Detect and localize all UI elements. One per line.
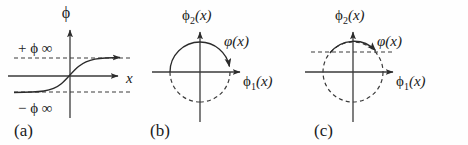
panel-c-phi2-base: ϕ: [335, 7, 343, 23]
panel-c-phi2-arg: (x): [348, 7, 365, 24]
panel-label-a: (a): [14, 121, 33, 140]
panel-b-phi1-axis-label: ϕ1(x): [243, 73, 273, 92]
panel-a-lower-asymptote-label: − ϕ ∞: [18, 100, 53, 116]
panel-c-phi1-axis-label: ϕ1(x): [396, 73, 426, 92]
panel-a-upper-asymptote-label: + ϕ ∞: [18, 40, 53, 56]
panel-b-phi1-arg: (x): [256, 73, 273, 90]
panel-label-c: (c): [314, 121, 333, 140]
panel-b-phi2-label-text: ϕ2(x): [182, 7, 212, 26]
panel-c-field-vector-label: φ(x): [377, 33, 402, 50]
panel-a-kink-curve: [14, 58, 120, 93]
panel-a: ϕ x + ϕ ∞ − ϕ ∞ (a): [8, 4, 133, 140]
panel-c-phi1-arg: (x): [409, 73, 426, 90]
panel-a-x-axis-label: x: [125, 70, 133, 86]
panel-b-phi2-arg: (x): [195, 7, 212, 24]
panel-c-phi1-base: ϕ: [396, 73, 404, 89]
panel-b-phi2-base: ϕ: [182, 7, 190, 23]
panel-c: ϕ2(x) ϕ1(x) φ(x) (c): [305, 7, 426, 140]
panel-b-phi1-base: ϕ: [243, 73, 251, 89]
panel-c-phi1-label-text: ϕ1(x): [396, 73, 426, 92]
panel-c-phi2-label-text: ϕ2(x): [335, 7, 365, 26]
panel-a-upper-asymptote-text: + ϕ ∞: [18, 40, 53, 56]
figure-canvas: ϕ x + ϕ ∞ − ϕ ∞ (a) ϕ2(x): [0, 0, 468, 145]
panel-c-phi2-axis-label: ϕ2(x): [335, 7, 365, 26]
panel-b-phi2-axis-label: ϕ2(x): [182, 7, 212, 26]
panel-b-circle-dashed-lower-left: [170, 72, 200, 102]
panel-b: ϕ2(x) ϕ1(x) φ(x) (b): [150, 7, 273, 140]
panel-a-phi-axis-label: ϕ: [62, 4, 70, 22]
panel-b-field-vector-label: φ(x): [224, 33, 249, 50]
panel-b-circle-dashed-lower-right: [200, 72, 230, 102]
figure-container: ϕ x + ϕ ∞ − ϕ ∞ (a) ϕ2(x): [0, 0, 468, 145]
panel-a-lower-asymptote-text: − ϕ ∞: [18, 100, 53, 116]
panel-b-phi1-label-text: ϕ1(x): [243, 73, 273, 92]
panel-label-b: (b): [150, 121, 170, 140]
